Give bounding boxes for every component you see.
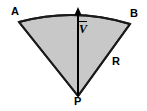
vector-arrowhead	[75, 7, 82, 15]
label-radius-r: R	[112, 56, 120, 67]
label-point-p: P	[74, 96, 81, 107]
sector-figure: A B R P V	[0, 0, 147, 111]
label-vector-v: V	[79, 21, 87, 35]
label-point-a: A	[11, 6, 19, 17]
vector-glyph: V	[79, 23, 87, 35]
label-point-b: B	[130, 8, 138, 19]
